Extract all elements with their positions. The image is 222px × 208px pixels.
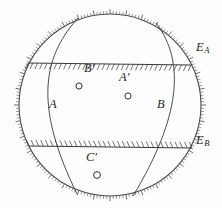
- graduation-ticks: [14, 9, 206, 201]
- hatched-line-EB-group: [26, 140, 192, 148]
- geometric-diagram: [0, 0, 222, 208]
- label-A-prime: A′: [119, 71, 129, 84]
- label-B: B: [157, 98, 165, 111]
- arc-B: [133, 23, 174, 196]
- label-B-prime: B′: [84, 62, 94, 75]
- label-EA: EA: [196, 41, 209, 55]
- label-C-prime: C′: [86, 151, 97, 164]
- point-marker-C-prime: [94, 172, 101, 179]
- point-marker-A-prime: [125, 93, 131, 99]
- point-marker-B-prime: [76, 83, 82, 89]
- label-EB-subscript: B: [204, 138, 209, 148]
- label-EB: EB: [196, 134, 209, 148]
- outer-circle: [19, 14, 201, 196]
- label-EA-subscript: A: [204, 45, 209, 55]
- label-A: A: [49, 98, 57, 111]
- outer-circle-group: [14, 9, 206, 201]
